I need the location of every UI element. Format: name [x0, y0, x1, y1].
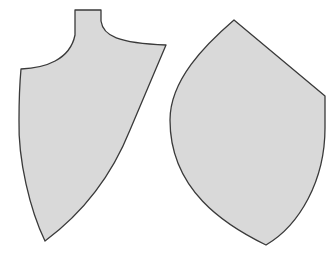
pattern-figure — [0, 0, 336, 258]
right-pattern-piece — [170, 20, 325, 245]
left-pattern-piece — [19, 10, 166, 241]
